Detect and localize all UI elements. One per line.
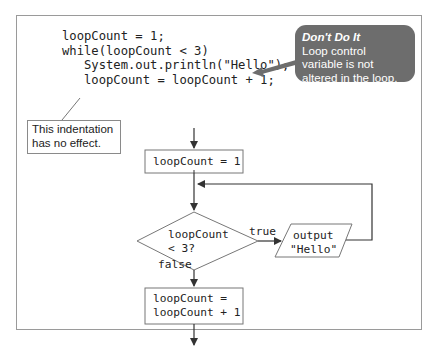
init-box-label: loopCount = 1 (153, 155, 241, 168)
decision-label-1: loopCount (168, 228, 229, 241)
output-label-1: output (293, 229, 333, 242)
update-label-1: loopCount = (153, 292, 227, 305)
note-leader-line (62, 98, 80, 120)
callout-arrow (258, 60, 299, 74)
decision-label-2: < 3? (168, 242, 195, 255)
output-label-2: "Hello" (290, 243, 337, 256)
true-label: true (249, 225, 276, 238)
decision-diamond (137, 212, 258, 270)
update-label-2: loopCount + 1 (153, 306, 241, 319)
false-label: false (158, 258, 192, 271)
